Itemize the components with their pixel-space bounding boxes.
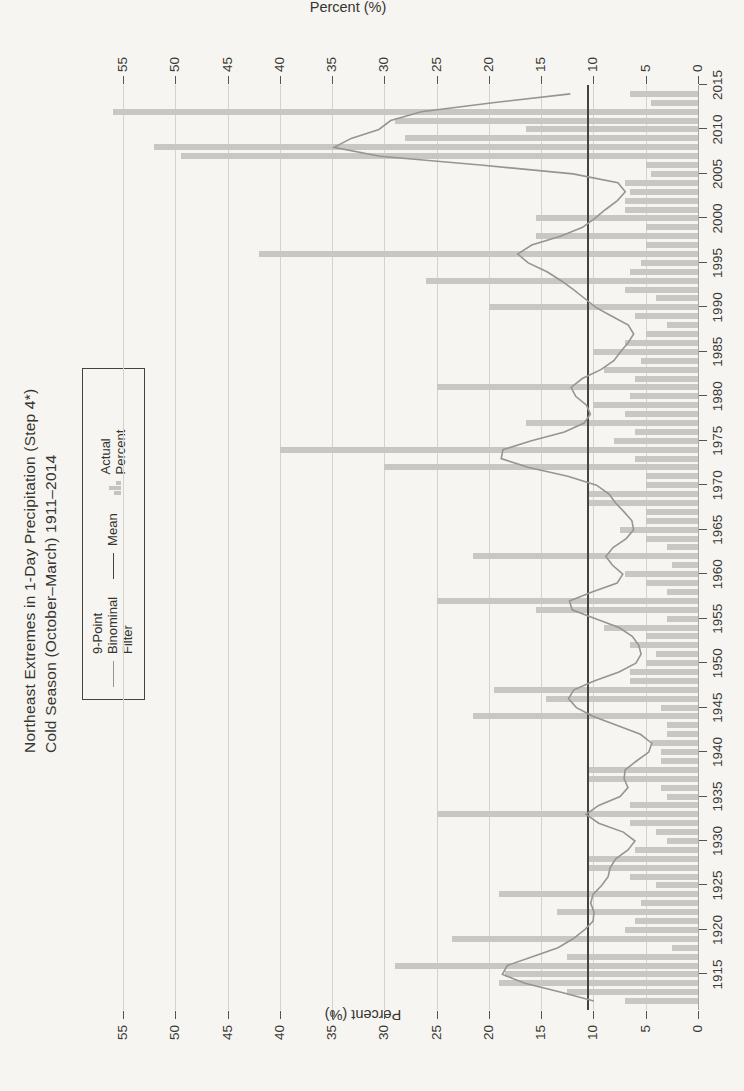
x-tick-label-2015: 2015 (710, 63, 725, 107)
filter-line-icon (113, 661, 114, 687)
y-tick-label-right: 5 (638, 64, 653, 72)
y-tick-right (437, 76, 438, 84)
x-tick-1945 (699, 707, 707, 708)
x-tick-1965 (699, 529, 707, 530)
x-tick-label-1995: 1995 (710, 241, 725, 285)
y-tick-right (280, 76, 281, 84)
y-tick-right (175, 76, 176, 84)
y-tick-right (123, 76, 124, 84)
x-tick-1970 (699, 484, 707, 485)
y-tick-left (437, 1011, 438, 1019)
y-tick-label-left: 35 (324, 1025, 339, 1055)
binomial-filter-line (123, 85, 698, 1010)
x-tick-2005 (699, 173, 707, 174)
y-tick-label-left: 20 (481, 1025, 496, 1055)
y-tick-left (489, 1011, 490, 1019)
y-tick-label-right: 40 (272, 57, 287, 72)
x-tick-1975 (699, 440, 707, 441)
chart-title: Northeast Extremes in 1-Day Precipitatio… (20, 389, 62, 753)
x-tick-1980 (699, 395, 707, 396)
y-tick-right (332, 76, 333, 84)
y-tick-left (698, 1011, 699, 1019)
x-tick-label-1935: 1935 (710, 775, 725, 819)
y-tick-left (280, 1011, 281, 1019)
y-tick-label-left: 25 (429, 1025, 444, 1055)
x-tick-label-1965: 1965 (710, 508, 725, 552)
rotated-chart: Northeast Extremes in 1-Day Precipitatio… (0, 0, 744, 1091)
y-tick-left (228, 1011, 229, 1019)
x-tick-1930 (699, 840, 707, 841)
y-tick-label-right: 35 (324, 57, 339, 72)
y-tick-label-right: 45 (220, 57, 235, 72)
y-tick-right (489, 76, 490, 84)
legend-mean-label: Mean (106, 513, 121, 546)
x-tick-1935 (699, 796, 707, 797)
x-tick-label-1930: 1930 (710, 819, 725, 863)
x-tick-label-2010: 2010 (710, 107, 725, 151)
y-tick-label-right: 25 (429, 57, 444, 72)
y-tick-label-left: 0 (690, 1025, 705, 1055)
x-tick-1950 (699, 662, 707, 663)
y-tick-label-right: 10 (585, 57, 600, 72)
y-tick-label-left: 45 (220, 1025, 235, 1055)
x-tick-1915 (699, 973, 707, 974)
x-tick-1920 (699, 929, 707, 930)
y-tick-right (541, 76, 542, 84)
x-tick-label-1980: 1980 (710, 374, 725, 418)
x-tick-label-1960: 1960 (710, 552, 725, 596)
x-tick-label-2000: 2000 (710, 196, 725, 240)
y-tick-label-right: 50 (167, 57, 182, 72)
y-tick-label-right: 55 (115, 57, 130, 72)
y-tick-right (384, 76, 385, 84)
y-tick-left (123, 1011, 124, 1019)
x-tick-1995 (699, 262, 707, 263)
x-tick-1925 (699, 884, 707, 885)
y-tick-label-right: 15 (533, 57, 548, 72)
x-tick-2010 (699, 128, 707, 129)
x-tick-label-1955: 1955 (710, 597, 725, 641)
y-tick-label-left: 5 (638, 1025, 653, 1055)
legend-item-mean: Mean (106, 513, 121, 579)
x-tick-label-1970: 1970 (710, 463, 725, 507)
mean-line-icon (113, 553, 114, 579)
y-tick-right (228, 76, 229, 84)
x-tick-label-2005: 2005 (710, 152, 725, 196)
y-tick-right (698, 76, 699, 84)
y-tick-label-right: 0 (690, 64, 705, 72)
x-tick-label-1945: 1945 (710, 686, 725, 730)
x-tick-label-1975: 1975 (710, 419, 725, 463)
y-tick-label-left: 10 (585, 1025, 600, 1055)
x-tick-1985 (699, 351, 707, 352)
y-tick-left (384, 1011, 385, 1019)
y-axis-label-right: Percent (%) (310, 0, 387, 15)
y-tick-right (593, 76, 594, 84)
plot-area (123, 85, 698, 1010)
x-tick-label-1915: 1915 (710, 952, 725, 996)
x-tick-1955 (699, 618, 707, 619)
x-tick-label-1990: 1990 (710, 285, 725, 329)
y-tick-left (175, 1011, 176, 1019)
x-tick-label-1985: 1985 (710, 330, 725, 374)
scanned-page: Northeast Extremes in 1-Day Precipitatio… (0, 0, 744, 1091)
y-tick-label-left: 30 (376, 1025, 391, 1055)
x-tick-2000 (699, 217, 707, 218)
x-tick-label-1940: 1940 (710, 730, 725, 774)
y-tick-left (332, 1011, 333, 1019)
x-tick-label-1950: 1950 (710, 641, 725, 685)
bar-swatch-icon (107, 481, 121, 495)
y-tick-left (646, 1011, 647, 1019)
y-tick-label-left: 40 (272, 1025, 287, 1055)
x-tick-2015 (699, 84, 707, 85)
x-tick-label-1925: 1925 (710, 863, 725, 907)
y-tick-label-right: 20 (481, 57, 496, 72)
y-tick-left (593, 1011, 594, 1019)
chart-title-line1: Northeast Extremes in 1-Day Precipitatio… (20, 389, 41, 753)
y-tick-right (646, 76, 647, 84)
y-tick-left (541, 1011, 542, 1019)
chart-title-line2: Cold Season (October–March) 1911–2014 (41, 389, 62, 753)
y-tick-label-left: 15 (533, 1025, 548, 1055)
x-tick-1990 (699, 306, 707, 307)
x-tick-1960 (699, 573, 707, 574)
y-tick-label-right: 30 (376, 57, 391, 72)
y-tick-label-left: 55 (115, 1025, 130, 1055)
